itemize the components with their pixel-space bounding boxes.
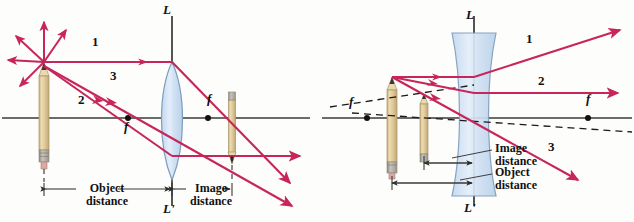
lens-plane-bottom-label-right: L' — [464, 201, 476, 215]
focal-label-right-far: f — [586, 92, 590, 106]
ray-label-1-left: 1 — [92, 35, 99, 49]
object-distance-label-line1-left: Object — [72, 182, 142, 195]
image-distance-label-line1-right: Image — [495, 142, 565, 155]
object-distance-label-line2-left: distance — [72, 195, 142, 208]
figure-canvas: L L' 1 3 2 f f Object distance Image dis… — [0, 0, 634, 222]
lens-plane-top-label-right: L — [466, 8, 474, 22]
lens-plane-top-label-left: L — [163, 3, 171, 17]
ray-2-right — [392, 77, 618, 93]
converging-lens-shape — [162, 62, 183, 180]
converging-lens-panel — [2, 16, 310, 206]
virtual-image-pencil-right — [420, 94, 428, 162]
focal-label-left-near: f — [124, 120, 128, 134]
object-distance-label-line2-right: distance — [495, 179, 565, 192]
ray-label-2-right: 2 — [538, 74, 545, 88]
ray-label-3-left: 3 — [110, 69, 117, 83]
ray-label-1-right: 1 — [526, 32, 533, 46]
focal-point-right-near — [364, 115, 370, 121]
focal-label-right-near: f — [349, 95, 353, 109]
ray-3-right-arrowhead — [429, 93, 441, 101]
diverging-lens-panel — [322, 16, 632, 206]
ray-label-2-left: 2 — [78, 93, 85, 107]
ray-1-right — [392, 30, 620, 77]
focal-label-left-far: f — [207, 92, 211, 106]
lens-plane-bottom-label-left: L' — [163, 202, 175, 216]
image-distance-label-line2-left: distance — [180, 195, 242, 208]
focal-point-right-far — [585, 115, 591, 121]
object-pencil-right — [387, 77, 397, 179]
object-pencil-left — [39, 62, 49, 169]
object-distance-label-line1-right: Object — [495, 166, 565, 179]
focal-point-left-far — [205, 115, 211, 121]
image-pencil-left-panel — [228, 92, 236, 164]
image-distance-label-line1-left: Image — [180, 182, 242, 195]
